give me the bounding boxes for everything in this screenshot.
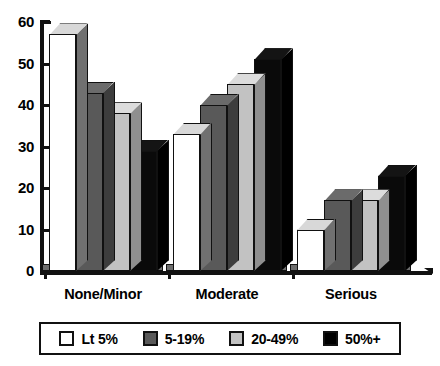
x-axis-tick (292, 271, 295, 279)
bar-side-face (103, 82, 115, 271)
legend-item-label: Lt 5% (81, 331, 117, 347)
y-axis-tick-label: 50 (0, 56, 34, 71)
x-axis-line (40, 271, 432, 275)
bar-chart: 6050403020100 None/MinorModerateSerious … (0, 0, 440, 366)
bar-moderate-series-0 (173, 123, 211, 271)
x-axis-tick (168, 271, 171, 279)
legend-item-label: 50%+ (345, 331, 380, 347)
bar-side-face (76, 23, 88, 271)
chart-legend: Lt 5% 5-19% 20-49% 50%+ (39, 322, 401, 355)
bar-side-face (351, 189, 363, 271)
legend-item[interactable]: 5-19% (143, 331, 204, 347)
legend-item[interactable]: 20-49% (229, 331, 298, 347)
bar-side-face (227, 94, 239, 271)
bar-side-face (200, 123, 212, 271)
bar-front-face (173, 134, 200, 271)
bar-side-face (254, 73, 266, 271)
y-axis-tick-label: 0 (0, 263, 34, 278)
y-axis-tick-label: 30 (0, 139, 34, 154)
y-axis-tick-label: 10 (0, 222, 34, 237)
legend-item[interactable]: 50%+ (323, 331, 380, 347)
dark-gray-swatch-icon (143, 331, 158, 346)
y-axis-tick-label: 20 (0, 180, 34, 195)
black-swatch-icon (323, 331, 338, 346)
bar-front-face (297, 230, 324, 272)
x-axis-arrow-icon (424, 268, 433, 274)
x-axis-tick (44, 271, 47, 279)
bar-side-face (130, 102, 142, 271)
category-label-serious: Serious (281, 286, 421, 302)
category-label-moderate: Moderate (157, 286, 297, 302)
y-axis-tick-label: 40 (0, 97, 34, 112)
bar-serious-series-0 (297, 219, 335, 272)
bar-side-face (378, 189, 390, 271)
bar-front-face (49, 34, 76, 271)
bar-none-minor-series-0 (49, 23, 87, 271)
bar-side-face (281, 48, 293, 271)
y-axis-tick-label: 60 (0, 14, 34, 29)
bar-side-face (157, 140, 169, 271)
legend-item-label: 5-19% (165, 331, 204, 347)
plot-area: 6050403020100 None/MinorModerateSerious (0, 0, 440, 366)
legend-item[interactable]: Lt 5% (59, 331, 117, 347)
bar-side-face (405, 165, 417, 271)
light-gray-swatch-icon (229, 331, 244, 346)
legend-item-label: 20-49% (251, 331, 298, 347)
category-label-none-minor: None/Minor (33, 286, 173, 302)
white-swatch-icon (59, 331, 74, 346)
